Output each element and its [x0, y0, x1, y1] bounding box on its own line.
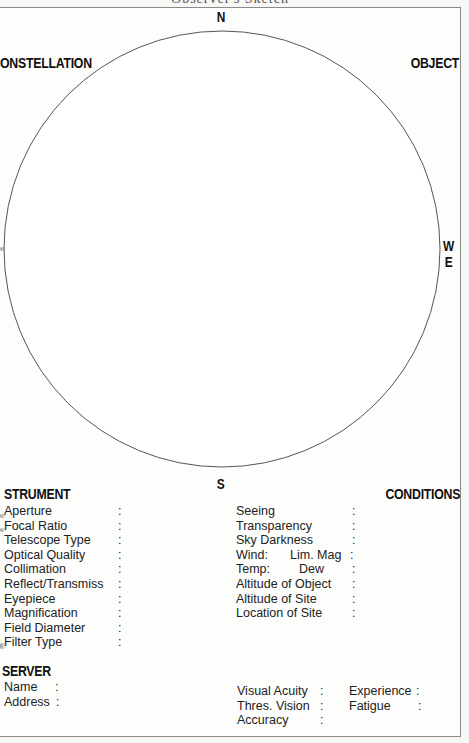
field-label: Experience — [349, 684, 416, 699]
field-colon: : — [352, 577, 355, 592]
observer-fields: Name: Address: — [4, 680, 59, 709]
field-row-address[interactable]: Address: — [4, 695, 59, 710]
field-label: Eyepiece — [4, 592, 118, 607]
field-colon: : — [56, 695, 59, 710]
field-label: Accuracy — [237, 713, 320, 728]
field-label: Reflect/Transmiss — [4, 577, 118, 592]
field-label: Seeing — [236, 504, 352, 519]
compass-north-label: N — [217, 9, 226, 25]
field-colon: : — [118, 504, 121, 519]
field-label: Aperture — [4, 504, 118, 519]
field-row-magnification[interactable]: Magnification: — [4, 606, 121, 621]
field-row-collimation[interactable]: Collimation: — [4, 562, 121, 577]
field-row-visual-acuity[interactable]: Visual Acuity: — [237, 684, 323, 699]
field-colon: : — [352, 504, 355, 519]
field-row-fatigue[interactable]: Fatigue: — [349, 699, 421, 714]
field-label: Field Diameter — [4, 621, 118, 636]
field-label: Name — [4, 680, 55, 695]
field-colon: : — [320, 684, 323, 699]
instrument-fields: Aperture: Focal Ratio: Telescope Type: O… — [4, 504, 121, 650]
field-colon: : — [55, 680, 58, 695]
field-label: Visual Acuity — [237, 684, 320, 699]
field-row-name[interactable]: Name: — [4, 680, 59, 695]
field-label: Magnification — [4, 606, 118, 621]
field-row-transparency[interactable]: Transparency: — [236, 519, 355, 534]
field-colon: : — [350, 548, 353, 563]
field-row-location-of-site[interactable]: Location of Site: — [236, 606, 355, 621]
observer-heading: SERVER — [2, 662, 51, 679]
field-row-wind-lim-mag[interactable]: Wind:Lim. Mag: — [236, 548, 355, 563]
field-row-reflect-transmiss[interactable]: Reflect/Transmiss: — [4, 577, 121, 592]
field-label: Sky Darkness — [236, 533, 352, 548]
field-label: Optical Quality — [4, 548, 118, 563]
field-row-temp-dew[interactable]: Temp:Dew: — [236, 562, 355, 577]
compass-east-label: E — [445, 254, 453, 270]
field-row-optical-quality[interactable]: Optical Quality: — [4, 548, 121, 563]
field-row-accuracy[interactable]: Accuracy: — [237, 713, 323, 728]
field-label-secondary: Dew — [299, 562, 352, 577]
field-row-aperture[interactable]: Aperture: — [4, 504, 121, 519]
field-colon: : — [352, 562, 355, 577]
field-label: Collimation — [4, 562, 118, 577]
field-row-eyepiece[interactable]: Eyepiece: — [4, 592, 121, 607]
field-row-telescope-type[interactable]: Telescope Type: — [4, 533, 121, 548]
field-row-altitude-of-site[interactable]: Altitude of Site: — [236, 592, 355, 607]
field-label: Thres. Vision — [237, 699, 320, 714]
field-colon: : — [118, 635, 121, 650]
field-row-sky-darkness[interactable]: Sky Darkness: — [236, 533, 355, 548]
field-colon: : — [118, 519, 121, 534]
field-colon: : — [118, 577, 121, 592]
object-heading: OBJECT — [411, 54, 459, 71]
field-colon: : — [352, 533, 355, 548]
constellation-heading: ONSTELLATION — [0, 54, 92, 71]
observer-state-fields: Experience: Fatigue: — [349, 684, 421, 713]
field-row-seeing[interactable]: Seeing: — [236, 504, 355, 519]
field-colon: : — [320, 713, 323, 728]
conditions-heading: CONDITIONS — [385, 485, 460, 502]
field-label-secondary: Lim. Mag — [290, 548, 350, 563]
field-label: Transparency — [236, 519, 352, 534]
field-label: Fatigue — [349, 699, 418, 714]
field-row-experience[interactable]: Experience: — [349, 684, 421, 699]
field-colon: : — [118, 621, 121, 636]
field-colon: : — [118, 592, 121, 607]
field-colon: : — [118, 562, 121, 577]
field-colon: : — [320, 699, 323, 714]
field-label: Focal Ratio — [4, 519, 118, 534]
field-label: Temp: — [236, 562, 299, 577]
field-colon: : — [418, 699, 421, 714]
field-colon: : — [118, 606, 121, 621]
field-colon: : — [352, 519, 355, 534]
compass-west-label: W — [443, 238, 454, 254]
field-label: Wind: — [236, 548, 290, 563]
field-label: Altitude of Site — [236, 592, 352, 607]
field-colon: : — [352, 592, 355, 607]
field-colon: : — [352, 606, 355, 621]
observer-vision-fields: Visual Acuity: Thres. Vision: Accuracy: — [237, 684, 323, 728]
field-row-focal-ratio[interactable]: Focal Ratio: — [4, 519, 121, 534]
field-label: Address — [4, 695, 56, 710]
scan-edge-mark — [0, 247, 6, 251]
field-colon: : — [118, 533, 121, 548]
field-row-filter-type[interactable]: Filter Type: — [4, 635, 121, 650]
compass-south-label: S — [217, 476, 225, 492]
field-label: Telescope Type — [4, 533, 118, 548]
field-label: Altitude of Object — [236, 577, 352, 592]
field-colon: : — [416, 684, 419, 699]
field-label: Filter Type — [4, 635, 118, 650]
field-colon: : — [118, 548, 121, 563]
conditions-fields: Seeing: Transparency: Sky Darkness: Wind… — [236, 504, 355, 621]
field-row-altitude-of-object[interactable]: Altitude of Object: — [236, 577, 355, 592]
field-label: Location of Site — [236, 606, 352, 621]
field-row-field-diameter[interactable]: Field Diameter: — [4, 621, 121, 636]
field-row-thres-vision[interactable]: Thres. Vision: — [237, 699, 323, 714]
instrument-heading: STRUMENT — [4, 485, 70, 502]
